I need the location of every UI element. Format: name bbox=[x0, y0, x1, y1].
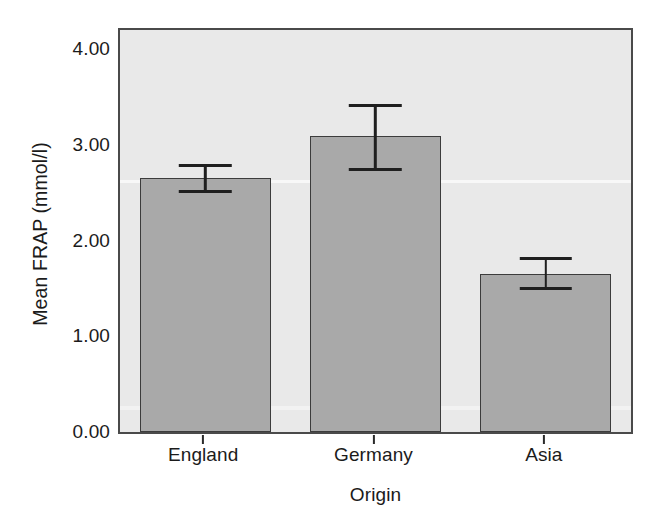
y-tick-label-0: 0.00 bbox=[38, 421, 110, 443]
y-axis-ticks: 0.00 1.00 2.00 3.00 4.00 bbox=[32, 0, 110, 531]
error-bar-cap-upper bbox=[179, 164, 231, 167]
x-tick-mark-asia bbox=[543, 435, 545, 444]
y-tick-label-3: 3.00 bbox=[38, 134, 110, 156]
error-bar-cap-upper bbox=[349, 104, 401, 107]
y-tick-label-4: 4.00 bbox=[38, 38, 110, 60]
plot-area bbox=[118, 28, 633, 434]
x-tick-mark-germany bbox=[372, 435, 374, 444]
bar-england bbox=[140, 178, 271, 432]
x-tick-mark-england bbox=[202, 435, 204, 444]
bar-asia bbox=[480, 274, 611, 432]
x-tick-label-england: England bbox=[168, 444, 238, 466]
bar-germany bbox=[310, 136, 441, 432]
y-tick-label-2: 2.00 bbox=[38, 230, 110, 252]
x-tick-label-germany: Germany bbox=[334, 444, 413, 466]
x-tick-label-asia: Asia bbox=[525, 444, 562, 466]
y-tick-label-1: 1.00 bbox=[38, 325, 110, 347]
x-axis-title: Origin bbox=[118, 484, 633, 506]
bar-chart-figure: Mean FRAP (mmol/l) 0.00 1.00 2.00 3.00 4… bbox=[0, 0, 660, 531]
error-bar-cap-upper bbox=[520, 257, 572, 260]
